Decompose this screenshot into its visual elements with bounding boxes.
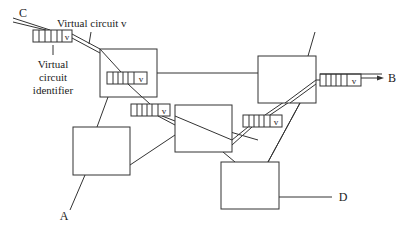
endpoint-A: A xyxy=(60,209,69,223)
vci-label-line3: identifier xyxy=(33,84,74,96)
link-switch2-switch3 xyxy=(130,135,175,165)
queue-switch-1-label: v xyxy=(139,74,144,84)
link-switch4-switch5-top xyxy=(268,103,300,162)
link-switch4-top xyxy=(308,32,315,56)
vc-label-pointer-line xyxy=(89,32,91,44)
switch-5 xyxy=(221,162,279,209)
switch-4 xyxy=(258,56,316,103)
queue-switch-1-out: v xyxy=(131,104,170,116)
endpoint-C: C xyxy=(19,6,27,20)
endpoint-B: B xyxy=(388,71,396,85)
link-switch3-switch5 xyxy=(223,152,235,162)
link-A xyxy=(70,175,85,210)
arrow-right-icon xyxy=(377,76,384,81)
vci-label-line1: Virtual xyxy=(38,58,69,70)
queue-exit-label: v xyxy=(352,76,357,86)
queue-exit: v xyxy=(320,74,361,86)
vci-label-line2: circuit xyxy=(39,71,67,83)
switch-2 xyxy=(73,127,130,175)
queue-switch-3-out-label: v xyxy=(274,117,279,127)
link-switch1-switch2 xyxy=(97,97,108,127)
queue-switch-1: v xyxy=(107,72,147,84)
endpoint-D: D xyxy=(339,190,348,204)
queue-entry: v xyxy=(33,30,72,42)
queue-entry-label: v xyxy=(65,32,70,42)
virtual-circuit-diagram: v v v v v xyxy=(0,0,412,235)
queue-switch-1-out-label: v xyxy=(162,106,167,116)
queue-switch-3-out: v xyxy=(243,115,282,127)
virtual-circuit-label: Virtual circuit v xyxy=(57,17,127,29)
